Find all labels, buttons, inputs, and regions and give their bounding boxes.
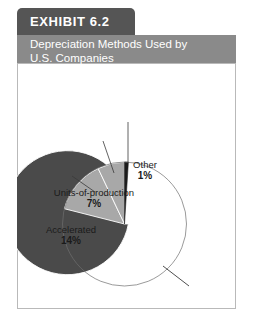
pie-label-units-of-production: Units-of-production 7%: [44, 187, 144, 209]
caption-line-1: Depreciation Methods Used by: [30, 38, 187, 50]
pie-label-other-value: 1%: [117, 170, 173, 181]
leader-line-straight-line: [163, 266, 189, 286]
pie-label-other-name: Other: [133, 159, 157, 170]
pie-label-accelerated-name: Accelerated: [46, 224, 96, 235]
pie-label-units-of-production-name: Units-of-production: [54, 187, 134, 198]
exhibit-figure: EXHIBIT 6.2 Depreciation Methods Used by…: [0, 0, 254, 325]
pie-label-accelerated-value: 14%: [35, 235, 107, 246]
pie-chart-svg: [17, 63, 236, 309]
exhibit-tab-label: EXHIBIT 6.2: [30, 14, 110, 29]
exhibit-tab: EXHIBIT 6.2: [17, 8, 135, 35]
pie-label-accelerated: Accelerated 14%: [35, 224, 107, 246]
pie-label-units-of-production-value: 7%: [44, 198, 144, 209]
pie-chart: Other 1% Units-of-production 7% Accelera…: [17, 63, 236, 309]
exhibit-caption: Depreciation Methods Used by U.S. Compan…: [30, 38, 230, 65]
pie-label-other: Other 1%: [117, 159, 173, 181]
